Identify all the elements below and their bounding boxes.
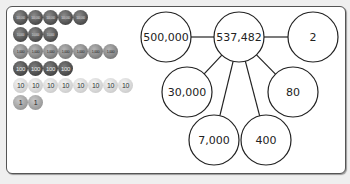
part-circle-2: 2 (288, 12, 338, 62)
center-total-circle: 537,482 (214, 12, 264, 62)
part-circle-80: 80 (268, 67, 318, 117)
connector-line (220, 61, 233, 115)
circle-value-label: 7,000 (198, 134, 230, 147)
value-circles: 537,482500,00030,0007,000400802 (141, 12, 338, 165)
circle-value-label: 500,000 (143, 31, 189, 44)
circle-value-label: 80 (286, 86, 300, 99)
circle-value-label: 537,482 (216, 31, 262, 44)
connector-line (257, 55, 276, 74)
circle-value-label: 30,000 (168, 86, 207, 99)
circle-value-label: 2 (310, 31, 317, 44)
connector-line (204, 55, 222, 74)
connector-line (245, 61, 259, 116)
part-circle-400: 400 (241, 115, 291, 165)
part-circle-7000: 7,000 (189, 115, 239, 165)
place-value-diagram: 537,482500,00030,0007,000400802 (0, 0, 350, 184)
part-circle-500000: 500,000 (141, 12, 191, 62)
part-circle-30000: 30,000 (162, 67, 212, 117)
circle-value-label: 400 (256, 134, 277, 147)
